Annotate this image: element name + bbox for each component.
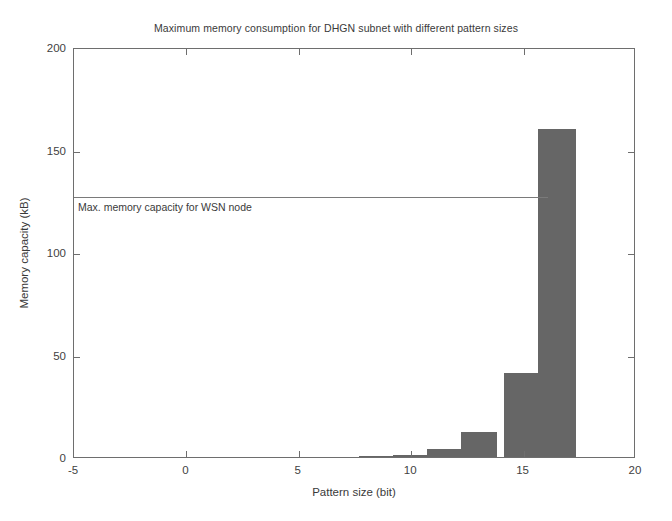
max-memory-threshold-line — [74, 197, 548, 198]
x-tick-mark — [299, 451, 300, 457]
y-tick-mark — [628, 152, 634, 153]
y-tick-mark — [74, 357, 80, 358]
y-tick-label: 200 — [47, 42, 66, 54]
bar — [427, 449, 463, 457]
x-tick-mark — [186, 451, 187, 457]
bar — [461, 432, 497, 457]
x-axis-tick-labels: -505101520 — [73, 464, 635, 482]
chart-title: Maximum memory consumption for DHGN subn… — [0, 22, 672, 34]
bar-series — [74, 49, 634, 457]
chart-figure: Maximum memory consumption for DHGN subn… — [0, 0, 672, 521]
bar — [504, 373, 542, 457]
y-tick-label: 50 — [53, 350, 66, 362]
y-tick-mark — [74, 152, 80, 153]
max-memory-threshold-label: Max. memory capacity for WSN node — [78, 201, 252, 213]
plot-area: Max. memory capacity for WSN node — [73, 48, 635, 458]
x-tick-label: 0 — [182, 464, 188, 476]
bar — [359, 456, 395, 457]
y-axis-title: Memory capacity (kB) — [18, 48, 30, 458]
y-tick-label: 0 — [60, 452, 66, 464]
x-tick-label: -5 — [68, 464, 78, 476]
y-tick-mark — [74, 254, 80, 255]
x-tick-label: 20 — [629, 464, 642, 476]
y-axis-tick-labels: 050100150200 — [28, 48, 66, 458]
x-tick-mark — [299, 49, 300, 55]
bar — [538, 129, 576, 457]
x-tick-label: 5 — [295, 464, 301, 476]
x-tick-mark — [524, 451, 525, 457]
x-tick-label: 10 — [404, 464, 417, 476]
x-tick-mark — [411, 49, 412, 55]
x-tick-mark — [186, 49, 187, 55]
y-tick-label: 100 — [47, 247, 66, 259]
x-axis-title: Pattern size (bit) — [73, 486, 635, 498]
x-tick-label: 15 — [516, 464, 529, 476]
x-tick-mark — [411, 451, 412, 457]
y-tick-label: 150 — [47, 145, 66, 157]
y-tick-mark — [628, 254, 634, 255]
y-tick-mark — [628, 357, 634, 358]
x-tick-mark — [524, 49, 525, 55]
